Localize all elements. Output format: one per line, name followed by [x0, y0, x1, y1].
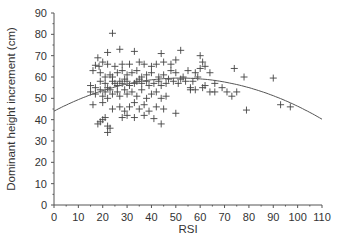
y-tick-label: 40: [35, 114, 47, 126]
data-point: [153, 103, 160, 110]
data-point: [270, 75, 277, 82]
y-tick-label: 80: [35, 28, 47, 40]
data-points: [87, 30, 294, 136]
x-tick-label: 100: [288, 211, 306, 223]
data-point: [146, 108, 153, 115]
data-point: [109, 30, 116, 37]
data-point: [136, 106, 143, 113]
data-point: [206, 69, 213, 76]
data-point: [116, 46, 123, 53]
data-point: [94, 54, 101, 61]
data-point: [126, 103, 133, 110]
y-axis-title: Dominant height increment (cm): [5, 27, 17, 191]
data-point: [89, 101, 96, 108]
data-point: [158, 50, 165, 57]
data-point: [241, 74, 248, 81]
data-point: [211, 88, 218, 95]
data-point: [131, 48, 138, 55]
data-point: [126, 61, 133, 68]
data-point: [231, 65, 238, 72]
data-point: [277, 101, 284, 108]
y-tick-label: 20: [35, 156, 47, 168]
y-tick-label: 70: [35, 50, 47, 62]
data-point: [141, 112, 148, 119]
data-point: [160, 59, 167, 66]
data-point: [131, 114, 138, 121]
data-point: [143, 95, 150, 102]
data-point: [243, 107, 250, 114]
scatter-chart: 0102030405060708090 01020304050607080901…: [0, 0, 340, 242]
x-tick-label: 50: [170, 211, 182, 223]
y-tick-label: 50: [35, 92, 47, 104]
data-point: [97, 69, 104, 76]
y-axis: 0102030405060708090: [35, 7, 54, 211]
data-point: [150, 115, 157, 122]
x-tick-label: 10: [72, 211, 84, 223]
x-tick-label: 110: [313, 211, 331, 223]
data-point: [96, 63, 103, 70]
data-point: [177, 47, 184, 54]
data-point: [160, 106, 167, 113]
data-point: [228, 93, 235, 100]
data-point: [219, 84, 226, 91]
data-point: [109, 106, 116, 113]
x-tick-label: 90: [267, 211, 279, 223]
y-tick-label: 0: [41, 199, 47, 211]
data-point: [104, 49, 111, 56]
x-axis-title: RSI: [178, 223, 197, 235]
data-point: [158, 120, 165, 127]
data-point: [197, 52, 204, 59]
x-tick-label: 80: [243, 211, 255, 223]
data-point: [111, 63, 118, 70]
data-point: [167, 61, 174, 68]
data-point: [131, 99, 138, 106]
x-tick-label: 20: [97, 211, 109, 223]
x-tick-label: 70: [218, 211, 230, 223]
x-axis: 0102030405060708090100110: [51, 205, 331, 223]
data-point: [116, 103, 123, 110]
data-point: [233, 88, 240, 95]
data-point: [99, 99, 106, 106]
data-point: [223, 88, 230, 95]
trend-line: [54, 78, 322, 119]
data-point: [172, 56, 179, 63]
data-point: [185, 67, 192, 74]
y-tick-label: 90: [35, 7, 47, 19]
x-tick-label: 60: [194, 211, 206, 223]
data-point: [138, 86, 145, 93]
data-point: [172, 110, 179, 117]
data-point: [133, 93, 140, 100]
x-tick-label: 30: [121, 211, 133, 223]
y-tick-label: 10: [35, 178, 47, 190]
x-tick-label: 0: [51, 211, 57, 223]
y-tick-label: 30: [35, 135, 47, 147]
data-point: [141, 101, 148, 108]
x-tick-label: 40: [145, 211, 157, 223]
data-point: [119, 61, 126, 68]
y-tick-label: 60: [35, 71, 47, 83]
